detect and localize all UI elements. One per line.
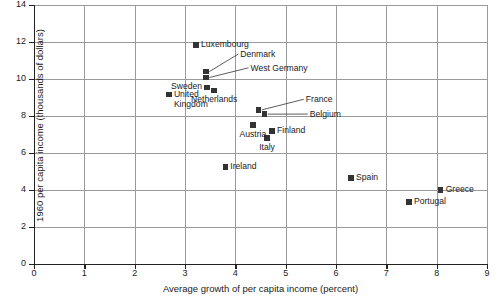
gridline-horizontal [34,42,487,43]
y-tick-label: 10 [2,73,26,83]
data-point-marker [438,187,444,193]
gridline-vertical [386,5,387,264]
x-tick-label: 8 [427,268,447,278]
data-point-label: West Germany [250,63,307,74]
gridline-vertical [437,5,438,264]
data-point-label: Finland [277,125,305,136]
data-point-label: Luxembourg [201,39,249,50]
x-tick-label: 2 [125,268,145,278]
data-point-label: Greece [446,184,474,195]
data-point-marker [211,88,217,94]
gridline-vertical [84,5,85,264]
data-point-marker [203,75,209,81]
y-tick-label: 12 [2,36,26,46]
y-tick-label: 4 [2,184,26,194]
y-tick-label: 14 [2,0,26,9]
gridline-vertical [336,5,337,264]
x-tick-label: 1 [74,268,94,278]
y-axis-title: 1960 per capita income (thousands of dol… [34,1,45,251]
data-point-label: France [306,94,333,105]
x-tick-label: 7 [376,268,396,278]
data-point-marker [203,69,209,75]
data-point-marker [250,122,256,128]
data-point-label: Belgium [310,109,341,120]
data-point-label: UnitedKingdom [174,89,208,110]
data-point-label: Denmark [240,49,275,60]
x-tick-label: 3 [175,268,195,278]
gridline-horizontal [34,227,487,228]
x-tick-label: 6 [326,268,346,278]
x-tick-label: 5 [276,268,296,278]
data-point-marker [193,42,199,48]
gridline-horizontal [34,5,487,6]
data-point-label: Portugal [414,196,446,207]
y-tick-label: 6 [2,147,26,157]
data-point-label: Ireland [230,161,256,172]
gridline-vertical [185,5,186,264]
data-point-marker [406,199,412,205]
x-axis-line [34,264,487,265]
data-point-marker [166,92,172,98]
caption-strip [34,300,474,306]
y-tick-label: 2 [2,221,26,231]
y-tick-label: 8 [2,110,26,120]
x-tick-label: 9 [477,268,497,278]
data-point-marker [262,111,268,117]
data-point-marker [256,107,262,113]
gridline-horizontal [34,190,487,191]
x-tick-label: 0 [24,268,44,278]
data-point-label: Italy [227,142,307,153]
gridline-vertical [135,5,136,264]
gridline-horizontal [34,116,487,117]
data-point-marker [223,164,229,170]
x-tick-label: 4 [225,268,245,278]
x-axis-title: Average growth of per capita income (per… [34,283,487,294]
gridline-horizontal [34,79,487,80]
gridline-vertical [487,5,488,264]
data-point-marker [348,175,354,181]
gridline-horizontal [34,153,487,154]
data-point-label: Spain [356,172,378,183]
scatter-chart: 02468101214 0123456789 1960 per capita i… [0,0,504,306]
y-tick-label: 0 [2,258,26,268]
